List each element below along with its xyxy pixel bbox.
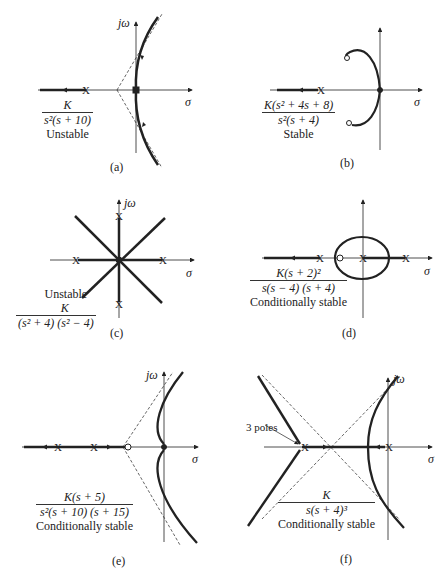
panel-f-caption: (f) [340,552,352,567]
panel-c-caption: (c) [110,326,123,341]
svg-text:X: X [159,254,167,266]
axis-label-sigma-b: σ [414,95,420,110]
axis-label-sigma-e: σ [192,452,198,467]
panel-a-stability: Unstable [42,127,93,141]
svg-text:X: X [72,254,80,266]
svg-text:X: X [316,252,324,264]
axis-label-sigma-d: σ [424,264,430,279]
axis-label-sigma-a: σ [185,95,191,110]
panel-f-annotation-3-poles: 3 poles [246,420,277,434]
panel-b-stability: Stable [262,127,335,141]
axis-label-jw-a: jω [118,16,130,31]
axis-label-jw-c: jω [124,196,136,211]
svg-text:X: X [54,441,62,453]
panel-f-stability: Conditionally stable [278,517,375,531]
panel-a-transfer-function: Ks²(s + 10)Unstable [42,98,93,141]
svg-text:X: X [90,441,98,453]
panel-e-caption: (e) [112,554,125,569]
panel-d-caption: (d) [342,326,356,341]
svg-text:X: X [402,252,410,264]
svg-text:X: X [115,298,123,310]
axis-label-jw-e: jω [146,368,158,383]
panel-c-stability: Unstable [16,287,96,301]
panel-d-stability: Conditionally stable [250,295,347,309]
axis-label-jw-f: jω [393,372,405,387]
panel-f-transfer-function: Ks(s + 4)³Conditionally stable [278,488,375,531]
svg-text:X: X [317,84,325,96]
panel-d-transfer-function: K(s + 2)²s(s − 4) (s + 4)Conditionally s… [250,266,347,309]
svg-text:X: X [115,210,123,222]
axis-label-sigma-c: σ [186,266,192,281]
svg-text:X: X [385,441,393,453]
panel-c-transfer-function: UnstableK(s² + 4) (s² − 4) [16,287,96,330]
panel-a-plot: X [38,14,192,168]
svg-text:X: X [82,84,90,96]
svg-text:X: X [301,441,309,453]
panel-e-stability: Conditionally stable [36,519,133,533]
panel-b-caption: (b) [340,156,354,171]
panel-b-transfer-function: K(s² + 4s + 8)s²(s + 4)Stable [262,98,335,141]
panel-e-transfer-function: K(s + 5)s²(s + 10) (s + 15)Conditionally… [36,490,133,533]
panel-a-caption: (a) [110,160,123,175]
axis-label-sigma-f: σ [428,452,434,467]
